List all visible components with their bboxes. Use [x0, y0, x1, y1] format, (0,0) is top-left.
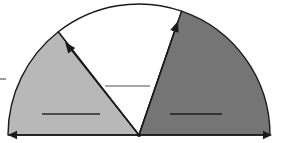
diagram-canvas	[0, 0, 282, 143]
sector-group	[8, 4, 270, 135]
center-vertex-dot	[137, 133, 141, 137]
semicircle-sector-diagram	[0, 0, 282, 143]
